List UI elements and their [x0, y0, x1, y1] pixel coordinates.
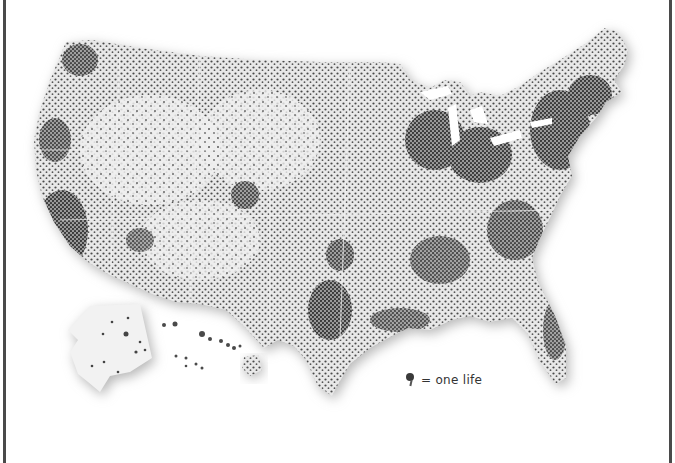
alaska — [68, 304, 242, 396]
us-dot-density-map — [0, 0, 675, 463]
pin-icon — [405, 373, 416, 387]
hawaii — [242, 355, 264, 379]
map-figure: = one life — [0, 0, 675, 463]
map-legend: = one life — [405, 373, 482, 387]
legend-label: = one life — [421, 373, 482, 387]
